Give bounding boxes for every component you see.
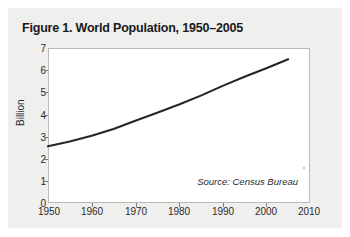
source-note: Source: Census Bureau (197, 176, 298, 187)
x-tick-label: 1950 (28, 206, 70, 217)
x-tick-label: 1980 (158, 206, 200, 217)
y-axis-title: Billion (15, 99, 26, 126)
x-tick-label: 1960 (71, 206, 113, 217)
x-tick-label: 1990 (202, 206, 244, 217)
x-tick-label: 2000 (245, 206, 287, 217)
x-tick-mark (179, 203, 180, 207)
y-tick-label: 5 (26, 87, 46, 98)
y-tick-label: 2 (26, 154, 46, 165)
x-tick-mark (136, 203, 137, 207)
chart-plot-area: Billion 7 6 5 4 3 2 1 0 1950 1960 1970 1… (8, 8, 342, 228)
x-tick-label: 2010 (288, 206, 330, 217)
x-tick-mark (266, 203, 267, 207)
y-tick-label: 7 (26, 43, 46, 54)
x-tick-mark (223, 203, 224, 207)
scan-artifact (303, 167, 305, 169)
x-tick-mark (92, 203, 93, 207)
y-tick-label: 3 (26, 132, 46, 143)
figure-card: Figure 1. World Population, 1950–2005 Bi… (8, 8, 342, 228)
x-tick-label: 1970 (115, 206, 157, 217)
y-tick-label: 6 (26, 65, 46, 76)
y-tick-label: 4 (26, 110, 46, 121)
y-tick-label: 1 (26, 176, 46, 187)
